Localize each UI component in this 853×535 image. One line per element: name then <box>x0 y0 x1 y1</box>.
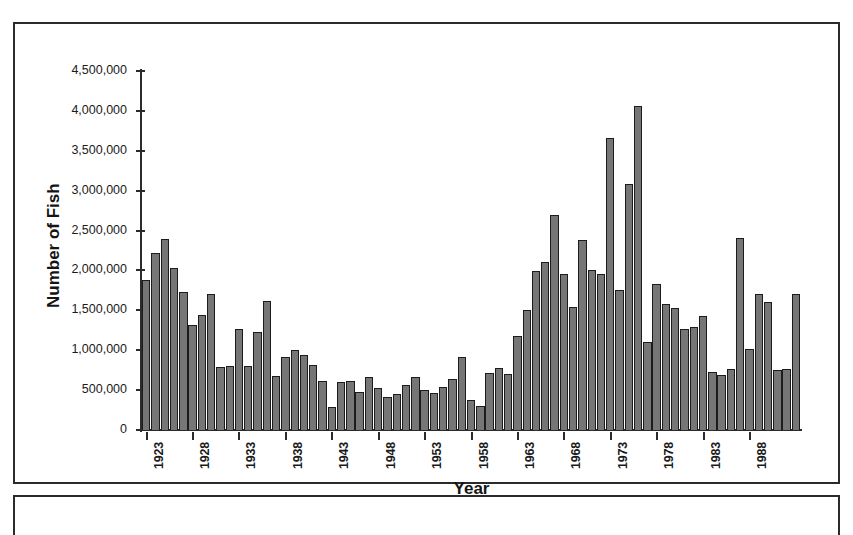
x-axis-tick <box>703 432 705 440</box>
bar <box>782 369 790 430</box>
bar <box>226 366 234 430</box>
x-axis-tick-label: 1948 <box>384 442 398 469</box>
bar <box>606 138 614 430</box>
x-axis-tick-label: 1958 <box>477 442 491 469</box>
y-axis-tick-label: 4,000,000 <box>71 102 127 118</box>
y-axis-tick-label: 4,500,000 <box>71 62 127 78</box>
bar <box>430 393 438 430</box>
bar <box>755 294 763 430</box>
bar <box>578 240 586 430</box>
bar <box>662 304 670 430</box>
bar <box>151 253 159 430</box>
bar <box>365 377 373 430</box>
bar <box>448 379 456 430</box>
x-axis-tick-label: 1953 <box>430 442 444 469</box>
bar <box>402 385 410 430</box>
x-axis-tick <box>146 432 148 440</box>
y-axis-tick: 2,500,000 <box>136 230 145 232</box>
bar <box>346 381 354 430</box>
bar <box>532 271 540 430</box>
bar <box>318 381 326 430</box>
bar <box>420 390 428 430</box>
x-axis-tick <box>238 432 240 440</box>
x-axis-tick <box>517 432 519 440</box>
bar <box>328 407 336 430</box>
y-axis-tick: 3,500,000 <box>136 150 145 152</box>
y-axis-tick-label: 2,000,000 <box>71 261 127 277</box>
bar <box>291 350 299 430</box>
bar <box>699 316 707 430</box>
bar <box>281 357 289 430</box>
x-axis-tick <box>749 432 751 440</box>
y-axis-tick: 3,000,000 <box>136 190 145 192</box>
x-axis-tick <box>563 432 565 440</box>
bar <box>569 307 577 430</box>
bar <box>625 184 633 430</box>
bar <box>207 294 215 430</box>
bar <box>244 366 252 430</box>
bar <box>504 374 512 430</box>
x-axis-tick <box>192 432 194 440</box>
bar <box>309 365 317 430</box>
bar <box>272 376 280 430</box>
x-axis-tick <box>378 432 380 440</box>
x-axis-tick-label: 1988 <box>755 442 769 469</box>
bar <box>485 373 493 430</box>
bar <box>170 268 178 430</box>
x-axis-tick-label: 1933 <box>244 442 258 469</box>
bar <box>179 292 187 430</box>
bar <box>523 310 531 430</box>
bar <box>476 406 484 430</box>
y-axis-title: Number of Fish <box>41 136 67 356</box>
x-axis-tick-label: 1943 <box>337 442 351 469</box>
bar <box>643 342 651 430</box>
chart-figure-frame: Number of Fish 4,500,0004,000,0003,500,0… <box>13 22 840 484</box>
bar <box>708 372 716 430</box>
bar <box>792 294 800 430</box>
y-axis-tick: 4,000,000 <box>136 110 145 112</box>
bar <box>513 336 521 430</box>
y-axis-tick: 2,000,000 <box>136 269 145 271</box>
bar <box>142 280 150 430</box>
x-axis-tick-label: 1938 <box>291 442 305 469</box>
bar <box>374 388 382 430</box>
bar <box>411 377 419 430</box>
y-axis-tick-label: 500,000 <box>82 381 127 397</box>
bar <box>588 270 596 430</box>
y-axis-tick-label: 2,500,000 <box>71 222 127 238</box>
bar <box>550 215 558 430</box>
bar <box>216 367 224 430</box>
x-axis-tick <box>471 432 473 440</box>
bar <box>467 400 475 430</box>
bar <box>188 325 196 430</box>
bar <box>773 370 781 430</box>
bar <box>717 375 725 430</box>
bar <box>439 387 447 430</box>
bar <box>690 327 698 430</box>
bar <box>263 301 271 430</box>
bar <box>337 382 345 430</box>
x-axis-tick-label: 1973 <box>616 442 630 469</box>
y-axis-tick-label: 3,500,000 <box>71 142 127 158</box>
y-axis-tick: 4,500,000 <box>136 70 145 72</box>
bar <box>161 239 169 430</box>
bar <box>560 274 568 430</box>
bar <box>671 308 679 430</box>
bar <box>198 315 206 430</box>
x-axis-tick <box>610 432 612 440</box>
bar <box>355 392 363 430</box>
bar <box>736 238 744 430</box>
x-axis-tick-label: 1968 <box>569 442 583 469</box>
y-axis-tick-label: 1,500,000 <box>71 301 127 317</box>
bar <box>652 284 660 430</box>
bar <box>495 368 503 430</box>
bar <box>458 357 466 430</box>
bar <box>634 106 642 430</box>
x-axis-tick <box>656 432 658 440</box>
bar <box>764 302 772 430</box>
x-axis-tick <box>331 432 333 440</box>
bar <box>615 290 623 430</box>
y-axis-tick-label: 3,000,000 <box>71 182 127 198</box>
bar <box>745 349 753 430</box>
x-axis-tick <box>424 432 426 440</box>
